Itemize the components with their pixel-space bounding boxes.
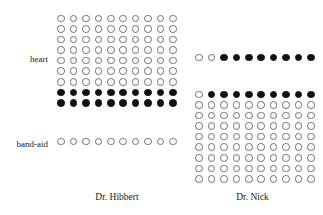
filled-dot	[230, 89, 242, 100]
empty-dot	[193, 52, 205, 63]
empty-dot	[154, 77, 166, 88]
empty-dot	[105, 34, 117, 45]
empty-dot	[230, 174, 242, 185]
empty-dot	[267, 110, 279, 121]
empty-dot	[255, 163, 267, 174]
empty-dot	[267, 131, 279, 142]
empty-dot	[154, 45, 166, 56]
empty-dot	[280, 174, 292, 185]
dot-row	[193, 52, 317, 63]
empty-dot	[129, 77, 141, 88]
filled-dot	[267, 52, 279, 63]
empty-dot	[193, 110, 205, 121]
empty-dot	[292, 110, 304, 121]
empty-dot	[218, 110, 230, 121]
empty-dot	[129, 34, 141, 45]
empty-dot	[167, 136, 179, 147]
empty-dot	[193, 100, 205, 111]
empty-dot	[230, 110, 242, 121]
empty-dot	[105, 55, 117, 66]
empty-dot	[280, 163, 292, 174]
empty-dot	[67, 66, 79, 77]
empty-dot	[105, 45, 117, 56]
empty-dot	[80, 77, 92, 88]
empty-dot	[267, 174, 279, 185]
empty-dot	[230, 163, 242, 174]
filled-dot	[154, 87, 166, 98]
filled-dot	[280, 89, 292, 100]
empty-dot	[243, 142, 255, 153]
dot-row	[55, 66, 179, 77]
empty-dot	[193, 174, 205, 185]
empty-dot	[67, 77, 79, 88]
dot-row	[55, 136, 179, 147]
empty-dot	[117, 136, 129, 147]
empty-dot	[218, 121, 230, 132]
dot-row	[55, 77, 179, 88]
empty-dot	[230, 121, 242, 132]
empty-dot	[292, 142, 304, 153]
empty-dot	[205, 52, 217, 63]
empty-dot	[267, 100, 279, 111]
filled-dot	[67, 98, 79, 109]
empty-dot	[243, 110, 255, 121]
empty-dot	[55, 66, 67, 77]
empty-dot	[193, 142, 205, 153]
empty-dot	[292, 174, 304, 185]
empty-dot	[67, 24, 79, 35]
filled-dot	[67, 87, 79, 98]
empty-dot	[80, 55, 92, 66]
empty-dot	[80, 24, 92, 35]
empty-dot	[142, 55, 154, 66]
filled-dot	[243, 52, 255, 63]
empty-dot	[105, 13, 117, 24]
empty-dot	[267, 142, 279, 153]
empty-dot	[154, 136, 166, 147]
empty-dot	[255, 100, 267, 111]
empty-dot	[292, 100, 304, 111]
empty-dot	[55, 136, 67, 147]
dot-row	[55, 45, 179, 56]
dot-row	[193, 121, 317, 132]
empty-dot	[243, 100, 255, 111]
empty-dot	[292, 131, 304, 142]
empty-dot	[55, 45, 67, 56]
empty-dot	[67, 136, 79, 147]
filled-dot	[105, 87, 117, 98]
empty-dot	[255, 110, 267, 121]
empty-dot	[230, 153, 242, 164]
filled-dot	[243, 89, 255, 100]
empty-dot	[167, 77, 179, 88]
empty-dot	[154, 24, 166, 35]
empty-dot	[142, 136, 154, 147]
empty-dot	[92, 24, 104, 35]
filled-dot	[292, 52, 304, 63]
filled-dot	[292, 89, 304, 100]
filled-dot	[154, 98, 166, 109]
empty-dot	[243, 121, 255, 132]
empty-dot	[117, 13, 129, 24]
empty-dot	[117, 77, 129, 88]
dot-block-hibbert-band-aid	[55, 136, 179, 147]
filled-dot	[105, 98, 117, 109]
empty-dot	[105, 77, 117, 88]
empty-dot	[280, 153, 292, 164]
dot-row	[193, 131, 317, 142]
empty-dot	[92, 13, 104, 24]
empty-dot	[230, 131, 242, 142]
empty-dot	[80, 136, 92, 147]
empty-dot	[167, 66, 179, 77]
filled-dot	[92, 98, 104, 109]
empty-dot	[280, 100, 292, 111]
empty-dot	[205, 110, 217, 121]
empty-dot	[92, 34, 104, 45]
empty-dot	[92, 55, 104, 66]
empty-dot	[154, 55, 166, 66]
empty-dot	[67, 13, 79, 24]
empty-dot	[129, 13, 141, 24]
empty-dot	[117, 55, 129, 66]
empty-dot	[218, 174, 230, 185]
dot-block-hibbert-heart	[55, 13, 179, 108]
empty-dot	[154, 13, 166, 24]
filled-dot	[117, 98, 129, 109]
